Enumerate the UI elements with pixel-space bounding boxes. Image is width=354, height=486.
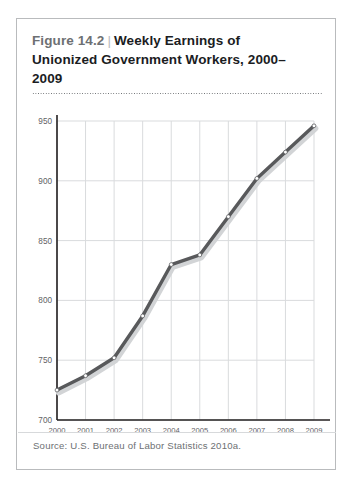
x-axis-tick-label: 2008 — [277, 426, 294, 435]
data-point-marker — [84, 374, 88, 378]
x-axis-tick-labels: 2000200120022003200420052006200720082009 — [49, 426, 323, 435]
data-point-marker — [169, 263, 173, 267]
page-canvas: Figure 14.2|Weekly Earnings of Unionized… — [0, 0, 354, 486]
x-axis-tick-label: 2007 — [248, 426, 265, 435]
figure-container: Figure 14.2|Weekly Earnings of Unionized… — [16, 18, 336, 470]
data-point-marker — [226, 215, 230, 219]
y-axis-tick-label: 900 — [38, 177, 52, 186]
y-axis-tick-label: 850 — [38, 237, 52, 246]
data-point-marker — [112, 356, 116, 360]
chart-svg: 700750800850900950 200020012002200320042… — [17, 19, 337, 471]
line-chart: 700750800850900950 200020012002200320042… — [17, 19, 337, 471]
x-axis-tick-label: 2006 — [220, 426, 237, 435]
x-axis-tick-label: 2003 — [134, 426, 151, 435]
source-divider — [18, 432, 336, 433]
source-note: Source: U.S. Bureau of Labor Statistics … — [33, 440, 241, 451]
y-axis-tick-label: 950 — [38, 117, 52, 126]
data-point-marker — [284, 150, 288, 154]
x-axis-tick-label: 2005 — [191, 426, 208, 435]
x-axis-tick-label: 2002 — [106, 426, 123, 435]
data-point-marker — [55, 388, 59, 392]
y-axis-tick-labels: 700750800850900950 — [38, 117, 52, 425]
data-point-marker — [141, 314, 145, 318]
y-axis-tick-label: 800 — [38, 296, 52, 305]
x-axis-tick-label: 2004 — [163, 426, 180, 435]
x-axis-tick-label: 2001 — [77, 426, 94, 435]
y-axis-tick-label: 750 — [38, 356, 52, 365]
data-point-marker — [255, 177, 259, 181]
y-axis-tick-label: 700 — [38, 416, 52, 425]
data-point-marker — [312, 124, 316, 128]
data-point-marker — [198, 253, 202, 257]
x-axis-tick-label: 2000 — [49, 426, 66, 435]
x-axis-tick-label: 2009 — [306, 426, 323, 435]
